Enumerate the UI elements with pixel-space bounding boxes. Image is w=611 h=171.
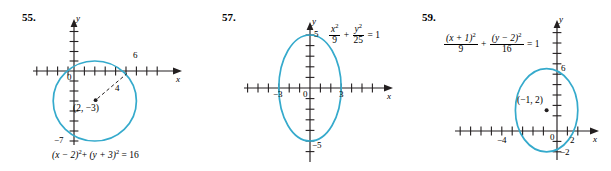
equation-plus: +	[344, 30, 349, 40]
origin-label: 0	[67, 73, 72, 82]
y-tick-label-5: 5	[314, 30, 319, 39]
equation-plus: +	[82, 150, 87, 160]
y-axis-label: y	[76, 14, 80, 23]
equation-lhs-x: (x − 2)	[52, 150, 78, 160]
equation-term-1-variable: (x + 1)	[446, 33, 472, 43]
equation-rhs: = 16	[122, 150, 139, 160]
equation-term-2-fraction: (y − 2)2 16	[490, 34, 524, 55]
figure-55-plot	[0, 0, 205, 171]
x-tick-label-6: 6	[133, 51, 138, 60]
center-dot	[545, 108, 549, 112]
equation-lhs-y: (y + 3)	[89, 150, 115, 160]
x-axis-label: x	[387, 92, 391, 101]
equation-term-1-denominator: 9	[329, 36, 340, 46]
y-tick-label-neg2: −2	[560, 148, 570, 157]
equation-caption: (x − 2)2+ (y + 3)2 = 16	[52, 151, 139, 161]
equation-rhs: = 1	[527, 39, 539, 49]
figure-59: 59.	[400, 0, 611, 171]
figure-55: 55.	[0, 0, 205, 171]
equation-lhs-y-exponent: 2	[116, 148, 119, 155]
ellipse-equation: x2 9 + y2 25 = 1	[328, 25, 380, 46]
origin-label: 0	[550, 133, 555, 142]
equation-term-1-fraction: x2 9	[329, 25, 340, 46]
y-axis-label: y	[312, 17, 316, 26]
equation-term-1-exponent: 2	[472, 31, 475, 38]
y-axis-label: y	[559, 15, 563, 24]
equation-plus: +	[481, 39, 486, 49]
x-axis-label: x	[176, 75, 180, 84]
x-axis-label: x	[593, 135, 597, 144]
ellipse-equation: (x + 1)2 9 + (y − 2)2 16 = 1	[443, 34, 539, 55]
figure-59-plot	[400, 0, 611, 171]
equation-term-2-denominator: 25	[353, 36, 364, 46]
figure-57: 57.	[200, 0, 405, 171]
y-tick-label-neg5: −5	[312, 141, 322, 150]
equation-term-1-denominator: 9	[444, 45, 478, 55]
y-tick-label-neg7: −7	[54, 136, 64, 145]
center-point-label: (−1, 2)	[517, 96, 543, 106]
origin-label: 0	[303, 90, 308, 99]
equation-term-2-exponent: 2	[359, 22, 362, 29]
equation-term-2-exponent: 2	[518, 31, 521, 38]
equation-term-2-variable: (y − 2)	[492, 33, 518, 43]
equation-term-2-fraction: y2 25	[353, 25, 364, 46]
equation-term-1-exponent: 2	[335, 22, 338, 29]
equation-term-1-fraction: (x + 1)2 9	[444, 34, 478, 55]
x-tick-label-neg4: −4	[497, 136, 507, 145]
exercise-figures-sheet: 55.	[0, 0, 611, 171]
x-tick-label-neg3: −3	[273, 90, 283, 99]
equation-term-2-denominator: 16	[490, 45, 524, 55]
y-tick-label-6: 6	[561, 64, 566, 73]
radius-length-label: 4	[115, 84, 120, 93]
x-tick-label-3: 3	[339, 90, 344, 99]
radius-dashed-line	[98, 74, 128, 99]
equation-rhs: = 1	[367, 30, 379, 40]
x-tick-label-2: 2	[570, 136, 575, 145]
center-dot	[94, 98, 98, 102]
center-point-label: (2, −3)	[73, 104, 99, 114]
